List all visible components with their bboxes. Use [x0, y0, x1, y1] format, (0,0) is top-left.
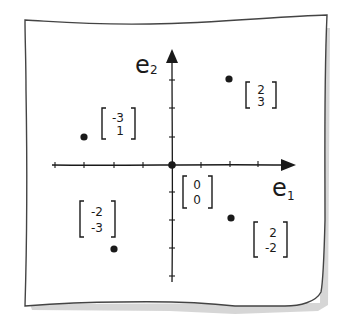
y-axis-subscript: 2	[150, 63, 158, 77]
point-dot-icon	[227, 214, 234, 221]
point-dot-icon	[110, 245, 117, 252]
vector-bottom: 3	[257, 95, 265, 109]
point-dot-icon	[225, 75, 232, 82]
vector-top: -2	[91, 205, 103, 219]
vector-bottom: -3	[91, 221, 103, 235]
vector-bottom: -2	[265, 241, 277, 255]
coordinate-plane-svg: e 1 e 2 2 3	[0, 0, 339, 318]
vector-top: 2	[269, 226, 277, 240]
x-axis-label: e	[272, 174, 287, 202]
point-dot-icon	[168, 161, 176, 169]
diagram-canvas: e 1 e 2 2 3	[0, 0, 339, 318]
y-axis-label: e	[135, 51, 150, 79]
x-axis-subscript: 1	[287, 189, 295, 203]
vector-bottom: 0	[193, 193, 201, 207]
vector-bottom: 1	[116, 124, 124, 138]
vector-top: 0	[193, 178, 201, 192]
point-dot-icon	[80, 133, 87, 140]
vector-top: -3	[112, 111, 124, 125]
